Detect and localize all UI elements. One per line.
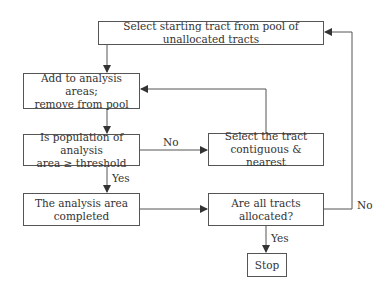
- population-check-node: Is population of analysis area ≥ thresho…: [23, 134, 140, 166]
- area-completed-node: The analysis area completed: [23, 193, 140, 226]
- select-tract-node: Select the tract contiguous & nearest: [208, 133, 324, 166]
- start-node: Select starting tract from pool of unall…: [98, 21, 324, 45]
- completed-node-line1: The analysis area: [35, 197, 128, 210]
- stop-node-label: Stop: [255, 259, 279, 272]
- select-node-line2: contiguous & nearest: [209, 143, 323, 169]
- check-no-label: No: [163, 136, 179, 148]
- check-node-line1: Is population of analysis: [24, 131, 139, 157]
- allocated-no-label: No: [357, 199, 373, 211]
- add-node-line1: Add to analysis areas;: [24, 72, 139, 98]
- start-node-label: Select starting tract from pool of unall…: [99, 20, 323, 46]
- all-allocated-node: Are all tracts allocated?: [208, 193, 324, 226]
- allocated-yes-label: Yes: [271, 232, 289, 244]
- add-node-line2: remove from pool: [24, 98, 139, 111]
- select-node-line1: Select the tract: [209, 130, 323, 143]
- check-yes-label: Yes: [112, 172, 130, 184]
- stop-node: Stop: [247, 253, 287, 277]
- allocated-node-label: Are all tracts allocated?: [209, 197, 323, 223]
- add-to-analysis-node: Add to analysis areas; remove from pool: [23, 73, 140, 109]
- check-node-line2: area ≥ threshold: [24, 157, 139, 170]
- completed-node-line2: completed: [35, 210, 128, 223]
